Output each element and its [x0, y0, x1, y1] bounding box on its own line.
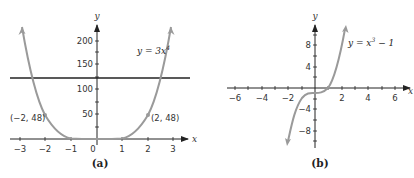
x-tick-label: 2 — [145, 144, 150, 154]
y-tick-label: 50 — [82, 109, 93, 119]
y-tick-label: −4 — [298, 104, 311, 114]
x-tick-label: −2 — [282, 93, 295, 103]
point-label-right: (2, 48) — [151, 113, 179, 123]
x-tick-label: −3 — [14, 144, 27, 154]
x-tick-label: 6 — [392, 93, 397, 103]
arrow-icon — [19, 27, 26, 35]
equation-label-b: y = x3 − 1 — [347, 36, 394, 48]
caption-a: (a) — [92, 157, 109, 169]
x-tick-label: 1 — [119, 144, 124, 154]
x-tick-label: −4 — [256, 93, 269, 103]
point-label-left: (−2, 48) — [10, 113, 45, 123]
x-axis-label-a: x — [192, 134, 197, 144]
point-marker — [146, 113, 150, 117]
y-tick-label: 150 — [77, 59, 93, 69]
x-axis-label-b: x — [408, 86, 413, 96]
x-tick-label: −6 — [229, 93, 242, 103]
x-tick-label: 3 — [170, 144, 175, 154]
y-tick-label: 4 — [306, 62, 311, 72]
x-tick-label: −1 — [65, 144, 78, 154]
x-tick-label: 4 — [365, 93, 370, 103]
x-tick-label: 0 — [90, 144, 95, 154]
panel-a: −3 −2 −1 0 1 2 3 50 100 150 200 y x (−2,… — [10, 11, 197, 169]
y-axis-label-a: y — [93, 11, 100, 21]
arrow-icon — [168, 27, 175, 35]
panel-b: −6 −4 −2 2 4 6 8 4 −4 −8 y x y = x3 − 1 … — [227, 11, 413, 169]
curve-x3-minus-1 — [288, 29, 345, 141]
y-tick-label: 8 — [306, 40, 311, 50]
y-axis-label-b: y — [311, 11, 318, 21]
y-tick-label: 100 — [77, 84, 93, 94]
x-tick-label: 2 — [339, 93, 344, 103]
y-tick-label: −8 — [298, 126, 311, 136]
caption-b: (b) — [311, 157, 328, 169]
x-tick-label: −2 — [39, 144, 52, 154]
equation-label-a: y = 3x4 — [136, 44, 170, 56]
figure: −3 −2 −1 0 1 2 3 50 100 150 200 y x (−2,… — [0, 0, 414, 178]
y-tick-label: 200 — [77, 36, 93, 46]
